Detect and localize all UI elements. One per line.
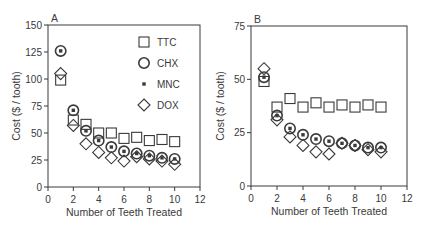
square-marker-icon	[285, 94, 295, 104]
y-tick-label: 100	[25, 74, 42, 85]
square-marker-icon	[106, 128, 116, 138]
y-tick-label: 75	[234, 21, 246, 32]
series-dox	[258, 63, 387, 160]
filled-square-marker-icon	[301, 133, 304, 136]
filled-square-marker-icon	[142, 82, 145, 85]
panel-b: 0255075024681012Number of Teeth TreatedC…	[212, 0, 423, 231]
square-marker-icon	[363, 100, 373, 110]
legend-item-dox: DOX	[138, 99, 179, 111]
y-tick-label: 0	[36, 182, 42, 193]
square-marker-icon	[324, 102, 334, 112]
x-tick-label: 10	[169, 194, 181, 205]
x-tick-label: 0	[45, 194, 51, 205]
filled-square-marker-icon	[173, 157, 176, 160]
x-tick-label: 0	[248, 193, 254, 204]
x-tick-label: 6	[326, 193, 332, 204]
x-tick-label: 2	[71, 194, 77, 205]
x-tick-label: 4	[300, 193, 306, 204]
filled-square-marker-icon	[148, 154, 151, 157]
square-marker-icon	[119, 133, 129, 143]
y-axis-label: Cost ($ / tooth)	[10, 71, 22, 140]
filled-square-marker-icon	[340, 142, 343, 145]
square-marker-icon	[337, 100, 347, 110]
series-ttc	[259, 76, 386, 112]
filled-square-marker-icon	[110, 145, 113, 148]
filled-square-marker-icon	[366, 146, 369, 149]
filled-square-marker-icon	[135, 152, 138, 155]
filled-square-marker-icon	[288, 127, 291, 130]
diamond-marker-icon	[323, 148, 335, 160]
x-tick-label: 6	[121, 194, 127, 205]
filled-square-marker-icon	[379, 146, 382, 149]
square-marker-icon	[298, 102, 308, 112]
x-axis-label: Number of Teeth Treated	[271, 205, 387, 217]
filled-square-marker-icon	[59, 49, 62, 52]
filled-square-marker-icon	[97, 139, 100, 142]
y-tick-label: 25	[234, 127, 246, 138]
diamond-marker-icon	[310, 146, 322, 158]
x-tick-label: 12	[194, 194, 206, 205]
diamond-marker-icon	[258, 63, 270, 75]
square-marker-icon	[170, 137, 180, 147]
legend-label: MNC	[157, 79, 180, 90]
legend-label: CHX	[157, 58, 178, 69]
y-tick-label: 50	[234, 74, 246, 85]
square-marker-icon	[139, 37, 149, 47]
diamond-marker-icon	[105, 152, 117, 164]
plot-frame	[251, 26, 407, 186]
diamond-marker-icon	[138, 99, 150, 111]
x-tick-label: 8	[147, 194, 153, 205]
panel-label: A	[51, 12, 58, 24]
x-tick-label: 4	[96, 194, 102, 205]
legend-item-chx: CHX	[139, 58, 179, 69]
x-tick-label: 12	[401, 193, 413, 204]
square-marker-icon	[376, 102, 386, 112]
filled-square-marker-icon	[122, 150, 125, 153]
x-tick-label: 2	[274, 193, 280, 204]
square-marker-icon	[157, 134, 167, 144]
diamond-marker-icon	[297, 139, 309, 151]
diamond-marker-icon	[55, 68, 67, 80]
legend-item-ttc: TTC	[139, 37, 176, 48]
filled-square-marker-icon	[314, 137, 317, 140]
circle-marker-icon	[139, 58, 149, 68]
y-tick-label: 125	[25, 47, 42, 58]
filled-square-marker-icon	[353, 144, 356, 147]
y-tick-label: 150	[25, 20, 42, 31]
square-marker-icon	[132, 132, 142, 142]
diamond-marker-icon	[80, 138, 92, 150]
filled-square-marker-icon	[275, 114, 278, 117]
filled-square-marker-icon	[72, 109, 75, 112]
panel-label: B	[254, 13, 261, 25]
legend-item-mnc: MNC	[142, 79, 179, 90]
filled-square-marker-icon	[262, 76, 265, 79]
y-tick-label: 0	[239, 181, 245, 192]
y-axis-label: Cost ($ / tooth)	[214, 71, 226, 140]
y-tick-label: 75	[31, 101, 43, 112]
x-tick-label: 10	[375, 193, 387, 204]
legend: TTCCHXMNCDOX	[138, 37, 180, 112]
y-tick-label: 50	[31, 128, 43, 139]
legend-label: TTC	[157, 37, 176, 48]
legend-label: DOX	[157, 100, 179, 111]
x-tick-label: 8	[352, 193, 358, 204]
filled-square-marker-icon	[84, 129, 87, 132]
square-marker-icon	[350, 102, 360, 112]
filled-square-marker-icon	[160, 156, 163, 159]
square-marker-icon	[144, 136, 154, 146]
panel-a: 0255075100125150024681012Number of Teeth…	[0, 0, 212, 231]
chart-panel-a: 0255075100125150024681012Number of Teeth…	[0, 0, 212, 231]
diamond-marker-icon	[93, 146, 105, 158]
chart-panel-b: 0255075024681012Number of Teeth TreatedC…	[212, 0, 423, 231]
y-tick-label: 25	[31, 155, 43, 166]
x-axis-label: Number of Teeth Treated	[66, 206, 182, 218]
filled-square-marker-icon	[327, 140, 330, 143]
diamond-marker-icon	[284, 131, 296, 143]
square-marker-icon	[311, 98, 321, 108]
